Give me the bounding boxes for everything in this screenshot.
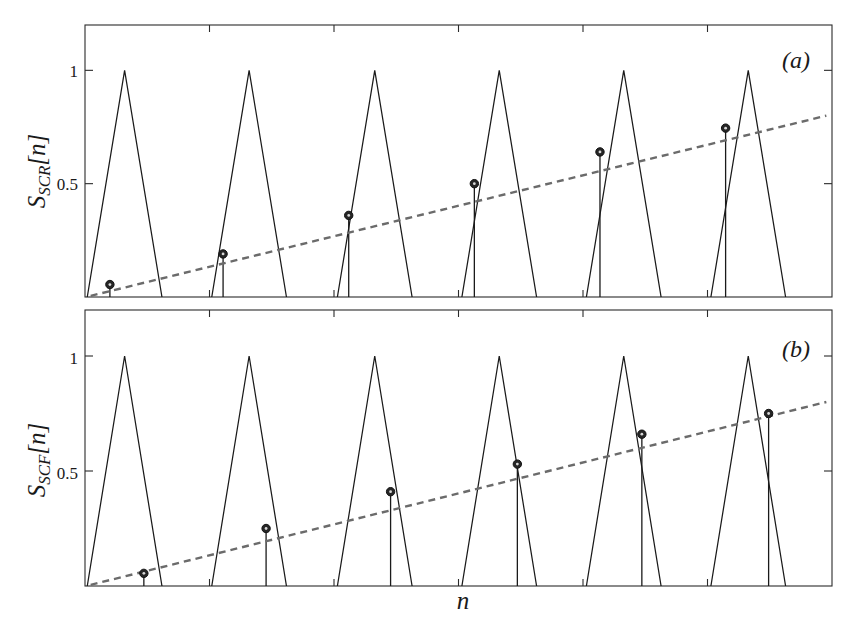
panel-a-ytick-label-1: 1: [70, 62, 79, 81]
sample-marker-center-5: [724, 127, 727, 130]
plot-canvas: 1 0.5 1 0.5 (a) (b) n: [0, 0, 855, 622]
triangle-pulse-0: [87, 70, 162, 297]
sample-marker-center-3: [516, 463, 519, 466]
triangle-pulse-4: [586, 70, 661, 297]
plot-frame: [85, 310, 832, 586]
triangle-pulse-3: [462, 356, 537, 586]
panel-a-tag: (a): [782, 47, 810, 73]
panel-b: [85, 310, 832, 586]
sample-marker-center-5: [767, 412, 770, 415]
sample-marker-center-3: [473, 182, 476, 185]
series-layer: [87, 356, 826, 586]
sample-marker-center-2: [347, 214, 350, 217]
triangle-pulse-2: [337, 356, 412, 586]
sample-marker-center-0: [109, 283, 112, 286]
figure-root: SSCR[n] SSCF[n] 1 0.5 1 0.5 (a) (b): [0, 0, 855, 622]
panel-a: [85, 25, 832, 297]
triangle-pulse-4: [586, 356, 661, 586]
panel-b-ytick-label-0: 0.5: [57, 464, 78, 483]
sample-marker-center-4: [599, 151, 602, 154]
triangle-pulse-5: [711, 356, 786, 586]
sample-marker-center-0: [142, 572, 145, 575]
x-axis-title: n: [457, 587, 470, 614]
triangle-pulse-0: [87, 356, 162, 586]
sample-marker-center-1: [265, 527, 268, 530]
panel-a-ytick-label-0: 0.5: [57, 175, 78, 194]
plot-frame: [85, 25, 832, 297]
sample-marker-center-1: [222, 253, 225, 256]
panel-b-tag: (b): [782, 336, 810, 362]
series-layer: [87, 70, 826, 297]
triangle-pulse-5: [711, 70, 786, 297]
sample-marker-center-2: [389, 490, 392, 493]
panel-b-ytick-label-1: 1: [70, 349, 79, 368]
sample-marker-center-4: [640, 433, 643, 436]
